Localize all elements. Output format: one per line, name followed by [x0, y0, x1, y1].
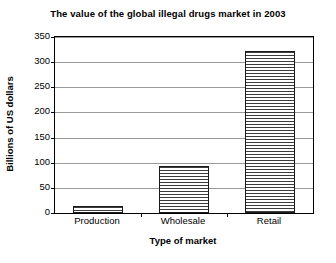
plot-area: [54, 36, 314, 214]
y-tick-mark: [51, 213, 55, 214]
bar-chart: The value of the global illegal drugs ma…: [0, 0, 336, 263]
y-axis-title: Billions of US dollars: [4, 76, 15, 172]
bar-retail: [245, 51, 295, 213]
bar-production: [73, 206, 123, 213]
y-tick-label: 350: [16, 31, 50, 41]
x-tick-label-production: Production: [54, 215, 140, 227]
x-axis-tick-labels: ProductionWholesaleRetail: [54, 215, 312, 229]
gridline: [55, 37, 313, 38]
y-tick-mark: [51, 87, 55, 88]
y-tick-label: 100: [16, 157, 50, 167]
x-axis-title: Type of market: [54, 235, 312, 247]
x-tick-label-wholesale: Wholesale: [140, 215, 226, 227]
y-tick-label: 150: [16, 132, 50, 142]
y-tick-mark: [51, 37, 55, 38]
y-tick-mark: [51, 188, 55, 189]
y-tick-label: 50: [16, 182, 50, 192]
y-tick-label: 250: [16, 81, 50, 91]
y-tick-label: 0: [16, 207, 50, 217]
chart-title: The value of the global illegal drugs ma…: [0, 8, 336, 20]
bar-wholesale: [159, 166, 209, 213]
x-tick-label-retail: Retail: [226, 215, 312, 227]
y-tick-label: 200: [16, 106, 50, 116]
y-tick-mark: [51, 163, 55, 164]
y-tick-mark: [51, 138, 55, 139]
y-tick-label: 300: [16, 56, 50, 66]
y-axis-tick-labels: 050100150200250300350: [14, 0, 50, 263]
y-tick-mark: [51, 62, 55, 63]
y-tick-mark: [51, 112, 55, 113]
x-axis-baseline: [55, 213, 313, 214]
